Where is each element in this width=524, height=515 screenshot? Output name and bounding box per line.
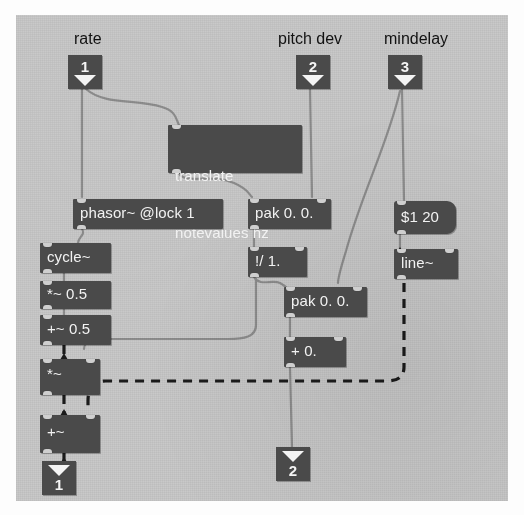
inlet-nub[interactable] bbox=[295, 247, 304, 251]
inlet-nub[interactable] bbox=[43, 415, 52, 419]
triangle-down-icon bbox=[302, 75, 324, 86]
inlet-nub[interactable] bbox=[397, 249, 406, 253]
outlet-2-value: 2 bbox=[289, 463, 297, 478]
outlet-nub[interactable] bbox=[77, 225, 86, 229]
cord-inlet3-to-pak-bottom bbox=[338, 91, 400, 283]
object-pak-bottom[interactable]: pak 0. 0. bbox=[284, 287, 367, 317]
inlet-nub[interactable] bbox=[334, 337, 343, 341]
inlet-nub[interactable] bbox=[43, 243, 52, 247]
inlet-nub[interactable] bbox=[86, 415, 95, 419]
outlet-nub[interactable] bbox=[286, 363, 295, 367]
inlet-nub[interactable] bbox=[43, 359, 52, 363]
inlet-nub[interactable] bbox=[445, 249, 454, 253]
inlet-nub[interactable] bbox=[286, 337, 295, 341]
cord-inlet3-to-message bbox=[402, 89, 404, 200]
object-pak-top[interactable]: pak 0. 0. bbox=[248, 199, 331, 229]
outlet-nub[interactable] bbox=[43, 269, 52, 273]
triangle-down-icon bbox=[48, 465, 70, 476]
outlet-nub[interactable] bbox=[43, 391, 52, 395]
inlet-nub[interactable] bbox=[43, 315, 52, 319]
inlet-nub[interactable] bbox=[86, 359, 95, 363]
patcher-canvas[interactable]: rate pitch dev mindelay 1 2 3 translate … bbox=[16, 15, 508, 501]
outlet-nub[interactable] bbox=[397, 230, 406, 234]
inlet-nub[interactable] bbox=[397, 201, 406, 205]
object-add-signal[interactable]: +~ bbox=[40, 415, 100, 453]
outlet-2[interactable]: 2 bbox=[276, 447, 310, 481]
inlet-nub[interactable] bbox=[77, 199, 86, 203]
outlet-1-value: 1 bbox=[55, 477, 63, 492]
object-translate-notevalues-hz[interactable]: translate notevalues hz bbox=[168, 125, 302, 173]
cord-add-zero-to-outlet2 bbox=[290, 367, 292, 447]
triangle-down-icon bbox=[74, 75, 96, 86]
inlet-nub[interactable] bbox=[172, 125, 181, 129]
inlet-nub[interactable] bbox=[353, 287, 362, 291]
inlet-nub[interactable] bbox=[317, 199, 326, 203]
inlet-nub[interactable] bbox=[286, 287, 295, 291]
outlet-nub[interactable] bbox=[397, 275, 406, 279]
object-translate-line1: translate bbox=[175, 166, 296, 185]
comment-mindelay: mindelay bbox=[384, 30, 448, 48]
inlet-1-value: 1 bbox=[81, 59, 89, 74]
inlet-2-value: 2 bbox=[309, 59, 317, 74]
patcher-window: rate pitch dev mindelay 1 2 3 translate … bbox=[0, 0, 524, 515]
object-phasor[interactable]: phasor~ @lock 1 bbox=[73, 199, 223, 229]
inlet-3-value: 3 bbox=[401, 59, 409, 74]
outlet-nub[interactable] bbox=[43, 305, 52, 309]
inlet-3-mindelay[interactable]: 3 bbox=[388, 55, 422, 89]
cord-phasor-to-cycle bbox=[78, 229, 83, 243]
comment-pitch-dev: pitch dev bbox=[278, 30, 342, 48]
outlet-1[interactable]: 1 bbox=[42, 461, 76, 495]
inlet-nub[interactable] bbox=[250, 247, 259, 251]
outlet-nub[interactable] bbox=[286, 313, 295, 317]
outlet-nub[interactable] bbox=[43, 449, 52, 453]
outlet-nub[interactable] bbox=[250, 225, 259, 229]
inlet-1-rate[interactable]: 1 bbox=[68, 55, 102, 89]
outlet-nub[interactable] bbox=[172, 169, 181, 173]
outlet-nub[interactable] bbox=[250, 273, 259, 277]
comment-rate: rate bbox=[74, 30, 102, 48]
triangle-down-icon bbox=[394, 75, 416, 86]
triangle-down-icon bbox=[282, 451, 304, 462]
outlet-nub[interactable] bbox=[43, 341, 52, 345]
inlet-nub[interactable] bbox=[43, 281, 52, 285]
cord-inlet1-to-translate bbox=[86, 89, 179, 125]
inlet-nub[interactable] bbox=[250, 199, 259, 203]
inlet-2-pitch-dev[interactable]: 2 bbox=[296, 55, 330, 89]
cord-inlet2-to-pak-top bbox=[310, 89, 312, 197]
object-multiply-signal[interactable]: *~ bbox=[40, 359, 100, 395]
